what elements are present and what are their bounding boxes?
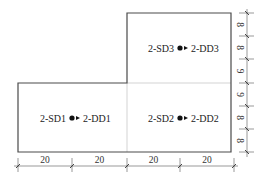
bottom-dimension-chain: 20 20 20 20	[14, 155, 238, 172]
sensor-marker-1: 2-SD1 2-DD1	[40, 113, 111, 124]
source-label-2: 2-SD2	[148, 113, 174, 124]
arrow-right-icon	[184, 116, 188, 120]
target-label-2: 2-DD2	[191, 113, 219, 124]
right-dimension-chain: 8 8 9 9 8 8	[235, 9, 254, 157]
sensor-marker-2: 2-SD2 2-DD2	[148, 113, 219, 124]
arrow-right-icon	[76, 116, 80, 120]
building-outline	[18, 13, 231, 152]
source-dot-icon	[69, 115, 74, 120]
target-label-3: 2-DD3	[191, 43, 219, 54]
floor-plan-diagram: 2-SD3 2-DD3 2-SD1 2-DD1 2-SD2 2-DD2 20 2…	[0, 0, 264, 183]
dimension-label: 20	[40, 155, 50, 165]
dimension-label: 8	[235, 22, 245, 27]
dimension-label: 8	[235, 138, 245, 143]
dimension-label: 8	[235, 115, 245, 120]
source-dot-icon	[177, 45, 182, 50]
source-label-3: 2-SD3	[148, 43, 174, 54]
sensor-marker-3: 2-SD3 2-DD3	[148, 43, 219, 54]
source-dot-icon	[177, 115, 182, 120]
arrow-right-icon	[184, 46, 188, 50]
dimension-label: 20	[202, 155, 212, 165]
target-label-1: 2-DD1	[83, 113, 111, 124]
source-label-1: 2-SD1	[40, 113, 66, 124]
dimension-label: 9	[235, 92, 245, 97]
dimension-label: 20	[95, 155, 105, 165]
dimension-label: 8	[235, 45, 245, 50]
dimension-label: 20	[149, 155, 159, 165]
dimension-label: 9	[235, 69, 245, 74]
